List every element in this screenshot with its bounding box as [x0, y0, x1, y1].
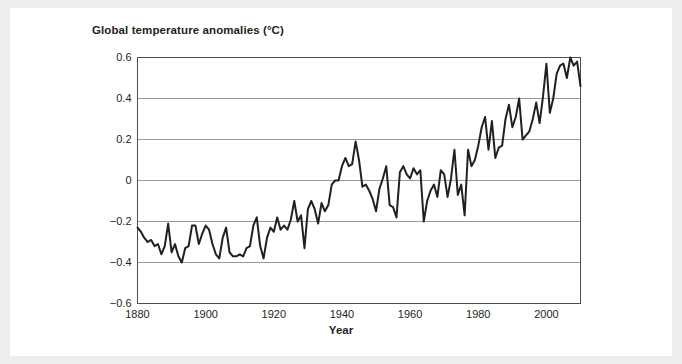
- x-tick-label: 1880: [108, 308, 168, 320]
- x-axis-title: Year: [0, 324, 682, 336]
- x-tick-label: 1940: [312, 308, 372, 320]
- y-tick-label: 0: [92, 174, 132, 186]
- x-tick-label: 1980: [448, 308, 508, 320]
- chart-container: Global temperature anomalies (°C) 0.60.4…: [0, 0, 682, 364]
- x-tick-label: 1900: [176, 308, 236, 320]
- y-tick-label: 0.6: [92, 51, 132, 63]
- x-tick-label: 1960: [380, 308, 440, 320]
- y-tick-label: 0.2: [92, 133, 132, 145]
- x-tick-label: 1920: [244, 308, 304, 320]
- series-line: [138, 58, 581, 263]
- y-tick-label: −0.4: [92, 256, 132, 268]
- x-tick-label: 2000: [516, 308, 576, 320]
- y-tick-label: −0.2: [92, 215, 132, 227]
- y-tick-label: 0.4: [92, 92, 132, 104]
- temperature-anomaly-series: [138, 58, 581, 263]
